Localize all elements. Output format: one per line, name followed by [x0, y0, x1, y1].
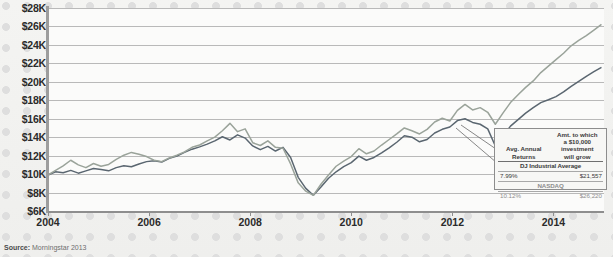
legend-header-row: Avg. Annual Returns Amt. to which a $10,…: [495, 129, 606, 160]
legend-header-growth-line1: Amt. to which: [552, 131, 604, 138]
legend-header-growth: Amt. to which a $10,000 investment will …: [552, 131, 604, 160]
legend-row-dj: 7.99% $21,557: [495, 172, 606, 180]
legend-header-growth-line3: investment: [552, 145, 604, 152]
source-note: Source: Morningstar 2013: [4, 244, 87, 251]
legend-header-avg-return-line1: Avg. Annual: [498, 145, 550, 152]
legend-header-avg-return-line2: Returns: [498, 153, 550, 160]
legend-row-nasdaq: 10.12% $26,220: [495, 192, 606, 200]
legend-header-growth-line4: will grow: [552, 153, 604, 160]
legend-header-avg-return: Avg. Annual Returns: [498, 145, 550, 159]
legend-dj-return: 7.99%: [498, 172, 550, 180]
source-note-prefix: Source:: [4, 244, 30, 251]
legend-row-name-dj: DJ Industrial Average: [495, 162, 606, 170]
legend-dj-growth: $21,557: [552, 172, 603, 180]
investment-growth-chart: $6K$8K$10K$12K$14K$16K$18K$20K$22K$24K$2…: [0, 0, 613, 257]
legend-row-name-nasdaq: NASDAQ: [495, 182, 606, 190]
legend-stats-table: Avg. Annual Returns Amt. to which a $10,…: [494, 128, 607, 190]
legend-nasdaq-return: 10.12%: [498, 192, 550, 200]
legend-header-growth-line2: a $10,000: [552, 138, 604, 145]
source-note-text: Morningstar 2013: [32, 244, 86, 251]
legend-nasdaq-growth: $26,220: [552, 192, 603, 200]
